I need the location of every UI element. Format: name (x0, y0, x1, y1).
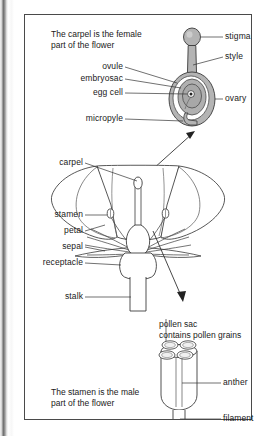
label-egg-cell: egg cell (53, 87, 123, 98)
caption-carpel-line2: part of the flower (51, 40, 114, 52)
style-shape (187, 46, 196, 77)
label-stalk: stalk (29, 291, 83, 302)
label-stigma: stigma (225, 31, 251, 42)
label-ovary: ovary (225, 93, 246, 104)
caption-pollen-sac-line1: pollen sac (159, 319, 197, 331)
caption-pollen-sac-line2: contains pollen grains (159, 330, 241, 342)
label-anther: anther (223, 377, 248, 388)
stigma-shape (184, 28, 201, 46)
flower-ovary (126, 225, 149, 256)
diagram-page: The carpel is the female part of the flo… (0, 0, 266, 436)
label-filament: filament (223, 413, 254, 424)
arrow-to-stamen-shaft (153, 231, 182, 298)
arrow-to-stamen-head (177, 291, 186, 302)
leader-micropyle (125, 119, 183, 121)
label-ovule: ovule (53, 61, 123, 72)
label-style: style (225, 51, 243, 62)
label-stamen: stamen (29, 209, 83, 220)
anther-body (161, 351, 197, 410)
scan-edge-band-light (8, 0, 14, 436)
figure-frame: The carpel is the female part of the flo… (24, 14, 252, 420)
label-sepal: sepal (29, 241, 83, 252)
stalk-shape (130, 277, 146, 311)
scan-edge-band (0, 0, 8, 436)
label-petal: petal (29, 225, 83, 236)
caption-carpel-line1: The carpel is the female (51, 29, 142, 41)
receptacle-shape (120, 253, 157, 280)
flower-stigma (134, 177, 142, 189)
label-carpel: carpel (29, 157, 83, 168)
leader-style (193, 57, 223, 65)
label-micropyle: micropyle (53, 113, 123, 124)
filament-shape (173, 410, 185, 419)
leader-receptacle (85, 263, 121, 265)
label-embryosac: embryosac (53, 73, 123, 84)
label-receptacle: receptacle (25, 257, 83, 268)
caption-stamen-line2: part of the flower (51, 398, 114, 410)
caption-stamen-line1: The stamen is the male (51, 387, 139, 399)
